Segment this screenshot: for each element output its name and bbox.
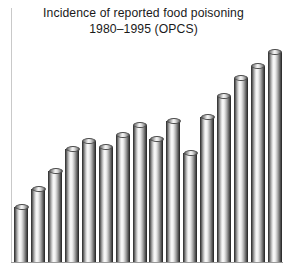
bar-1983 — [65, 149, 79, 262]
bar-top-cap — [133, 122, 147, 128]
bar-1980 — [14, 207, 28, 262]
bar-top-cap — [268, 49, 282, 55]
bar-top-cap — [32, 186, 46, 192]
bar-1982 — [48, 171, 62, 262]
bar-1994 — [251, 66, 265, 262]
bar-1988 — [149, 139, 163, 262]
bar-1981 — [31, 189, 45, 262]
bar-1986 — [116, 135, 130, 262]
chart-figure: Incidence of reported food poisoning 198… — [0, 0, 287, 270]
bar-series — [0, 0, 287, 270]
bar-top-cap — [150, 136, 164, 142]
bar-1985 — [99, 147, 113, 262]
bar-1993 — [234, 78, 248, 262]
bar-1991 — [200, 117, 214, 262]
plot-area — [0, 0, 287, 270]
bar-top-cap — [116, 132, 130, 138]
bar-top-cap — [15, 204, 29, 210]
bar-top-cap — [99, 144, 113, 150]
bar-top-cap — [217, 93, 231, 99]
bar-1984 — [82, 141, 96, 262]
bar-top-cap — [82, 138, 96, 144]
bar-top-cap — [167, 118, 181, 124]
bar-top-cap — [66, 146, 80, 152]
bar-1992 — [217, 96, 231, 262]
bar-top-cap — [184, 150, 198, 156]
bar-top-cap — [49, 168, 63, 174]
bar-1987 — [133, 125, 147, 262]
bar-1990 — [183, 153, 197, 262]
bar-top-cap — [251, 63, 265, 69]
bar-top-cap — [201, 114, 215, 120]
bar-1989 — [166, 121, 180, 262]
bar-1995 — [268, 52, 282, 262]
bar-top-cap — [234, 75, 248, 81]
